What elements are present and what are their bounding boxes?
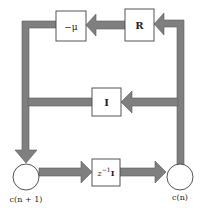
node-cn-plus-1: c(n + 1): [10, 164, 43, 204]
block-r-label: R: [135, 20, 144, 31]
node-cn: c(n): [167, 164, 193, 202]
arrow-neg-mu-to-cn1: [15, 21, 56, 163]
arrow-cn-to-r: [154, 13, 184, 165]
delay-suffix: I: [111, 168, 115, 178]
arrow-r-to-neg-mu: [86, 14, 125, 36]
arrow-cn-to-i: [121, 91, 178, 113]
block-diagram: −μ R I z−1I c(n + 1) c(n): [0, 0, 203, 208]
node-cn-plus-1-label: c(n + 1): [10, 195, 43, 204]
block-i: I: [92, 88, 121, 116]
arrow-cn1-to-delay: [39, 161, 92, 183]
block-neg-mu-label: −μ: [64, 22, 78, 32]
block-i-label: I: [104, 97, 109, 108]
arrow-delay-to-cn: [120, 161, 166, 183]
node-cn-label: c(n): [172, 193, 188, 202]
block-delay: z−1I: [92, 159, 120, 186]
delay-sup: −1: [102, 166, 111, 173]
block-r: R: [125, 9, 154, 41]
block-neg-mu: −μ: [56, 11, 86, 41]
arrow-i-to-left: [28, 98, 92, 106]
